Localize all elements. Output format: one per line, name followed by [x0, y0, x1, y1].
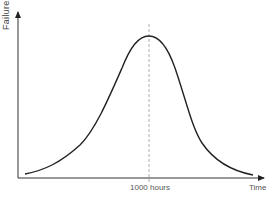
failure-curve: [25, 36, 253, 175]
x-tick-label: 1000 hours: [130, 183, 170, 192]
chart-canvas: [0, 0, 278, 198]
x-axis-label: Time: [249, 183, 266, 192]
y-axis-label: Failures: [1, 0, 11, 30]
